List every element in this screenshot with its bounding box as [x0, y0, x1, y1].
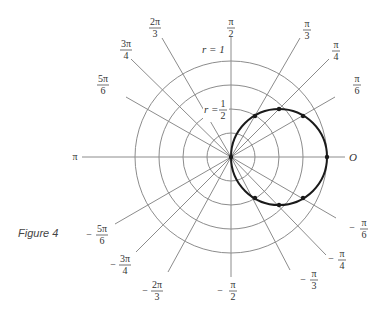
angle-label-pi-2: π 2: [227, 16, 235, 39]
svg-text:5π: 5π: [97, 223, 107, 234]
svg-text:π: π: [339, 248, 344, 259]
ray-neg-2pi-3: [168, 157, 231, 272]
svg-text:π: π: [72, 151, 77, 162]
angle-label-neg-pi-6: − π 6: [349, 217, 368, 240]
svg-text:π: π: [311, 268, 316, 279]
polar-diagram: r = 1 r = 1 2 O π 2 2π 3 3π 4 5π 6 π π: [0, 0, 383, 314]
svg-text:4: 4: [334, 51, 339, 62]
angle-label-neg-pi-2: − π 2: [217, 279, 237, 302]
svg-text:3: 3: [153, 28, 158, 39]
angle-label-neg-5pi-6: − 5π 6: [86, 223, 108, 246]
svg-text:π: π: [228, 16, 233, 27]
angle-label-neg-pi-3: − π 3: [300, 268, 318, 291]
angle-label-5pi-6: 5π 6: [97, 73, 109, 96]
svg-text:6: 6: [362, 229, 367, 240]
ray-pi-3: [231, 38, 300, 157]
svg-text:2π: 2π: [150, 16, 160, 27]
svg-text:3: 3: [305, 30, 310, 41]
angle-label-neg-2pi-3: − 2π 3: [142, 279, 163, 302]
point-theta-0: [325, 155, 329, 159]
angle-label-3pi-4: 3π 4: [120, 38, 132, 61]
angle-label-2pi-3: 2π 3: [149, 16, 161, 39]
svg-text:4: 4: [340, 260, 345, 271]
point-theta-neg-pi-4: [277, 203, 281, 207]
svg-text:−: −: [328, 253, 334, 264]
svg-text:3π: 3π: [120, 253, 130, 264]
svg-text:5π: 5π: [98, 73, 108, 84]
svg-text:r = 1: r = 1: [202, 43, 225, 55]
ray-neg-3pi-4: [136, 157, 231, 252]
svg-text:−: −: [300, 274, 306, 285]
angle-label-neg-pi-4: − π 4: [328, 248, 346, 271]
point-theta-neg-pi-3: [253, 196, 257, 200]
angle-label-pi-3: π 3: [303, 18, 311, 41]
ray-pi-6: [231, 97, 335, 157]
svg-text:2: 2: [221, 110, 226, 121]
svg-text:π: π: [354, 73, 359, 84]
svg-text:−: −: [217, 285, 223, 296]
svg-text:6: 6: [100, 235, 105, 246]
polar-grid-rays: [82, 37, 345, 277]
svg-text:3: 3: [155, 291, 160, 302]
angle-label-pi: π: [72, 151, 77, 162]
point-theta-pi-4: [277, 107, 281, 111]
origin-label: O: [349, 151, 357, 163]
point-origin: [229, 155, 233, 159]
svg-text:6: 6: [101, 85, 106, 96]
point-theta-neg-pi-6: [301, 196, 305, 200]
svg-text:π: π: [333, 39, 338, 50]
svg-text:6: 6: [355, 85, 360, 96]
angle-label-pi-6: π 6: [353, 73, 361, 96]
svg-text:4: 4: [123, 265, 128, 276]
svg-text:r =: r =: [204, 103, 218, 115]
svg-text:1: 1: [221, 98, 226, 109]
svg-text:−: −: [349, 222, 355, 233]
svg-text:π: π: [230, 279, 235, 290]
svg-text:π: π: [361, 217, 366, 228]
ring-label-r1: r = 1: [201, 43, 229, 55]
svg-text:2: 2: [229, 28, 234, 39]
angle-label-pi-4: π 4: [332, 39, 340, 62]
svg-text:3π: 3π: [121, 38, 131, 49]
svg-text:−: −: [86, 229, 92, 240]
svg-text:3: 3: [312, 280, 317, 291]
svg-text:π: π: [304, 18, 309, 29]
svg-text:2: 2: [231, 291, 236, 302]
svg-text:4: 4: [124, 50, 129, 61]
ray-neg-5pi-6: [115, 157, 231, 224]
point-theta-pi-6: [301, 114, 305, 118]
figure-caption: Figure 4: [18, 227, 58, 239]
svg-text:−: −: [110, 259, 116, 270]
point-theta-pi-3: [253, 114, 257, 118]
svg-text:2π: 2π: [152, 279, 162, 290]
angle-label-neg-3pi-4: − 3π 4: [110, 253, 131, 276]
svg-text:−: −: [142, 285, 148, 296]
ring-label-r-half: r = 1 2: [203, 98, 229, 122]
